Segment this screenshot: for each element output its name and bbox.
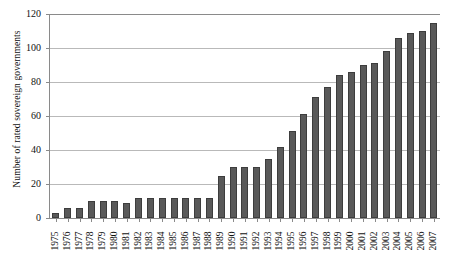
bar-2007[interactable] bbox=[430, 23, 437, 219]
bar-slot-2006 bbox=[416, 14, 428, 218]
x-tick-label-1983: 1983 bbox=[144, 232, 154, 251]
bar-1980[interactable] bbox=[111, 201, 118, 218]
bar-slot-1986 bbox=[180, 14, 192, 218]
bar-chart: Number of rated sovereign governments 19… bbox=[0, 0, 454, 260]
bar-series bbox=[50, 14, 440, 218]
x-tick-label-1995: 1995 bbox=[286, 232, 296, 251]
x-tick-label-1980: 1980 bbox=[109, 232, 119, 251]
bar-1985[interactable] bbox=[171, 198, 178, 218]
bar-1993[interactable] bbox=[265, 159, 272, 219]
x-tick-label-1994: 1994 bbox=[274, 232, 284, 251]
bar-1976[interactable] bbox=[64, 208, 71, 218]
bar-slot-1993 bbox=[263, 14, 275, 218]
x-label-slot-1999: 1999 bbox=[333, 222, 345, 260]
bar-1990[interactable] bbox=[230, 167, 237, 218]
bar-slot-2000 bbox=[345, 14, 357, 218]
bar-slot-1982 bbox=[133, 14, 145, 218]
y-tick-label-120: 120 bbox=[0, 9, 41, 19]
x-label-slot-1978: 1978 bbox=[84, 222, 96, 260]
bar-slot-1980 bbox=[109, 14, 121, 218]
x-tick-label-2001: 2001 bbox=[357, 232, 367, 251]
y-tick-label-0: 0 bbox=[0, 213, 41, 223]
bar-slot-1984 bbox=[156, 14, 168, 218]
x-tick-label-2000: 2000 bbox=[345, 232, 355, 251]
bar-1992[interactable] bbox=[253, 167, 260, 218]
x-tick-label-1982: 1982 bbox=[133, 232, 143, 251]
x-tick-label-2006: 2006 bbox=[416, 232, 426, 251]
x-label-slot-1992: 1992 bbox=[250, 222, 262, 260]
bar-slot-1981 bbox=[121, 14, 133, 218]
bar-slot-2004 bbox=[393, 14, 405, 218]
x-label-slot-1988: 1988 bbox=[203, 222, 215, 260]
x-tick-label-1979: 1979 bbox=[97, 232, 107, 251]
x-label-slot-2005: 2005 bbox=[403, 222, 415, 260]
bar-2001[interactable] bbox=[360, 65, 367, 218]
y-tick-label-80: 80 bbox=[0, 77, 41, 87]
bar-1996[interactable] bbox=[300, 114, 307, 218]
bar-slot-2007 bbox=[428, 14, 440, 218]
bar-1984[interactable] bbox=[159, 198, 166, 218]
x-label-slot-2001: 2001 bbox=[356, 222, 368, 260]
bar-slot-2005 bbox=[404, 14, 416, 218]
x-tick-label-2003: 2003 bbox=[381, 232, 391, 251]
bar-1994[interactable] bbox=[277, 147, 284, 218]
x-tick-label-1986: 1986 bbox=[180, 232, 190, 251]
x-tick-label-2007: 2007 bbox=[428, 232, 438, 251]
bar-1986[interactable] bbox=[182, 198, 189, 218]
bar-slot-1992 bbox=[251, 14, 263, 218]
x-label-slot-2007: 2007 bbox=[427, 222, 439, 260]
x-tick-label-1987: 1987 bbox=[192, 232, 202, 251]
x-label-slot-1985: 1985 bbox=[167, 222, 179, 260]
bar-1978[interactable] bbox=[88, 201, 95, 218]
x-label-slot-1993: 1993 bbox=[262, 222, 274, 260]
bar-1997[interactable] bbox=[312, 97, 319, 218]
bar-1991[interactable] bbox=[241, 167, 248, 218]
x-tick-label-1993: 1993 bbox=[263, 232, 273, 251]
bar-slot-1977 bbox=[74, 14, 86, 218]
bar-slot-1979 bbox=[97, 14, 109, 218]
bar-slot-1990 bbox=[227, 14, 239, 218]
bar-1995[interactable] bbox=[289, 131, 296, 218]
bar-2003[interactable] bbox=[383, 51, 390, 218]
plot-area bbox=[49, 14, 440, 219]
x-label-slot-1990: 1990 bbox=[226, 222, 238, 260]
x-label-slot-2003: 2003 bbox=[380, 222, 392, 260]
x-label-slot-2002: 2002 bbox=[368, 222, 380, 260]
bar-1998[interactable] bbox=[324, 87, 331, 218]
bar-1977[interactable] bbox=[76, 208, 83, 218]
bar-slot-2002 bbox=[369, 14, 381, 218]
x-tick-label-1981: 1981 bbox=[121, 232, 131, 251]
bar-slot-1987 bbox=[192, 14, 204, 218]
x-label-slot-1991: 1991 bbox=[238, 222, 250, 260]
bar-2002[interactable] bbox=[371, 63, 378, 218]
x-tick-label-1985: 1985 bbox=[168, 232, 178, 251]
x-label-slot-1983: 1983 bbox=[144, 222, 156, 260]
bar-1981[interactable] bbox=[123, 203, 130, 218]
bar-1988[interactable] bbox=[206, 198, 213, 218]
bar-2006[interactable] bbox=[419, 31, 426, 218]
bar-1983[interactable] bbox=[147, 198, 154, 218]
bar-1979[interactable] bbox=[100, 201, 107, 218]
x-axis-tick-labels: 1975197619771978197919801981198219831984… bbox=[49, 222, 439, 260]
bar-1999[interactable] bbox=[336, 75, 343, 218]
x-tick-label-1999: 1999 bbox=[333, 232, 343, 251]
bar-slot-1978 bbox=[85, 14, 97, 218]
bar-1982[interactable] bbox=[135, 198, 142, 218]
bar-1987[interactable] bbox=[194, 198, 201, 218]
bar-1989[interactable] bbox=[218, 176, 225, 219]
bar-slot-1994 bbox=[274, 14, 286, 218]
x-tick-label-1984: 1984 bbox=[156, 232, 166, 251]
x-tick-label-1977: 1977 bbox=[74, 232, 84, 251]
bar-2000[interactable] bbox=[348, 72, 355, 218]
x-label-slot-1987: 1987 bbox=[191, 222, 203, 260]
bar-2005[interactable] bbox=[407, 33, 414, 218]
x-label-slot-1981: 1981 bbox=[120, 222, 132, 260]
bar-slot-1995 bbox=[286, 14, 298, 218]
x-tick-label-1976: 1976 bbox=[62, 232, 72, 251]
bar-slot-1985 bbox=[168, 14, 180, 218]
x-label-slot-2000: 2000 bbox=[344, 222, 356, 260]
x-tick-label-1989: 1989 bbox=[215, 232, 225, 251]
bar-2004[interactable] bbox=[395, 38, 402, 218]
y-tick-mark-0 bbox=[46, 218, 50, 219]
x-label-slot-1994: 1994 bbox=[273, 222, 285, 260]
